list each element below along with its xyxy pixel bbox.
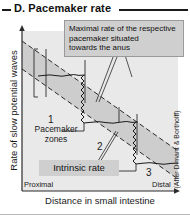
chart-area: Maximal rate of the respective pacemaker… [0,19,190,213]
callout-box: Maximal rate of the respective pacemaker… [64,20,184,57]
callout-line-2: pacemaker situated [69,34,180,44]
page-title: D. Pacemaker rate [14,2,111,14]
callout-leader-2 [99,52,119,102]
x-axis-tick-distal: Distal [152,180,171,189]
zone-2-label: 2 [97,141,103,152]
callout-line-1: Maximal rate of the respective [69,24,180,34]
source-credit: (After Dimant & Bortholff) [173,69,180,189]
figure-panel: D. Pacemaker rate [0,0,190,221]
intrinsic-rate-label: Intrinsic rate [39,160,119,176]
x-axis-arrow [174,188,180,194]
pacemaker-zones-line-2: zones [24,134,88,144]
title-rule-left [2,9,11,11]
callout-line-3: towards the anus [69,43,180,53]
y-axis-title: Rate of slow potential waves [8,36,19,186]
callout-leader-1 [96,52,115,102]
zone-3-label: 3 [146,167,152,178]
panel-title-bar: D. Pacemaker rate [0,0,190,19]
pacemaker-zones-label: Pacemaker zones [24,124,88,144]
panel-bottom-rule [0,214,190,215]
pacemaker-zones-line-1: Pacemaker [24,124,88,134]
x-axis-title: Distance in small intestine [22,195,178,206]
x-axis-tick-proximal: Proximal [24,180,53,189]
y-axis-arrow [19,25,25,31]
title-rule-right [119,9,188,11]
